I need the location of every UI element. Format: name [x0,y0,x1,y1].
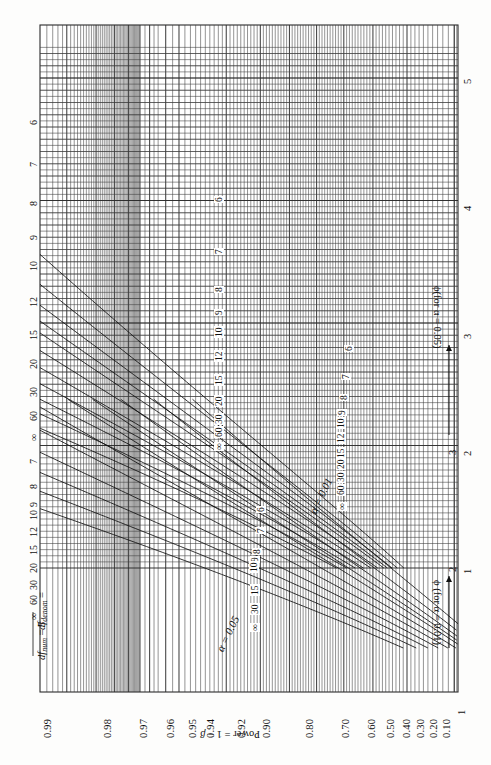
chart-canvas [0,0,491,765]
phi-001-axis-title: ϕ (for α = 0.01) [432,580,443,645]
curve-label-inner-001: 6 [344,345,354,352]
power-tick-label: 0.95 [187,719,198,738]
curve-label-inner-005: 8 [252,548,262,555]
curve-label-inner-005: 30 [250,604,260,616]
curve-label-edge: 12 [28,527,39,537]
curve-label-edge: 7 [28,162,39,167]
power-tick-label: 0.30 [415,719,426,738]
df-num-symbol: df [36,652,47,660]
curve-label-inner-001: 10 [336,418,346,430]
curve-label-mid: ∞ [214,442,224,451]
curve-label-edge: 6 [28,120,39,125]
power-tick-label: 0.40 [401,719,412,738]
phi-005-tick-label: 5 [462,79,473,84]
curve-label-mid: 30 [214,414,224,426]
power-tick-label: 0.20 [428,719,439,738]
curve-label-inner-001: 15 [336,448,346,460]
curve-label-inner-001: ∞ [337,502,347,511]
df-num-subscript: num [40,638,49,652]
power-tick-label: 0.90 [261,719,272,738]
phi-005-tick-label: 2 [462,451,473,456]
power-axis-end-label: 1 [456,710,467,715]
power-axis-title-text: Power = 1 − [206,729,260,740]
curve-label-edge: 15 [28,330,39,340]
df-denom-subscript: denom [40,601,49,622]
curve-label-mid: 15 [214,375,224,387]
df-denom-symbol: df [36,622,47,630]
curve-label-mid: 6 [214,196,224,203]
curve-label-edge: 12 [28,297,39,307]
curve-label-mid: 20 [214,396,224,408]
curve-label-inner-001: 60 [336,485,346,497]
curve-label-mid: 9 [214,309,224,316]
phi-005-axis-title: ϕ(for α = 0.05) [432,286,443,348]
power-tick-label: 0.80 [304,719,315,738]
curve-label-edge: 15 [28,545,39,555]
curve-label-edge: 20 [28,563,39,573]
curve-label-edge: 30 [28,387,39,397]
curve-label-inner-005: 7 [256,527,266,534]
curve-label-inner-001: 20 [336,459,346,471]
curve-label-edge: 10 [28,510,39,520]
curve-label-inner-005: 15 [250,585,260,597]
curve-label-inner-005: ∞ [250,623,260,632]
curve-label-mid: 8 [214,286,224,293]
curve-label-edge: 7 [28,459,39,464]
power-tick-label: 0.70 [340,719,351,738]
power-tick-label: 0.98 [102,719,113,738]
phi-005-tick-label: 4 [462,206,473,211]
power-tick-label: 0.60 [366,719,377,738]
curve-label-inner-001: 9 [337,409,347,416]
curve-label-edge: ∞ [28,613,39,620]
curve-label-inner-001: 7 [341,373,351,380]
curve-label-edge: 9 [28,235,39,240]
curve-label-inner-005: 6 [256,506,266,513]
curve-label-edge: 8 [28,484,39,489]
power-axis-beta: β [200,729,205,740]
power-tick-label: 0.99 [42,719,53,738]
curve-label-inner-001: 30 [336,472,346,484]
phi-005-tick-label: 1 [462,569,473,574]
curve-label-edge: 8 [28,201,39,206]
phi-005-tick-label: 3 [462,334,473,339]
power-tick-label: 0.50 [385,719,396,738]
curve-label-mid: 12 [214,351,224,363]
curve-label-inner-005: 10 [249,562,259,574]
power-tick-label: 0.96 [165,719,176,738]
curve-label-mid: 60 [214,427,224,439]
power-curve-figure: 0.990.980.970.960.950.940.920.900.800.70… [0,0,491,765]
curve-label-edge: 20 [28,359,39,369]
power-axis-title: Power = 1 − β [200,729,260,740]
curve-label-edge: 30 [28,580,39,590]
curve-label-edge: 60 [28,595,39,605]
phi-001-tick-label: 3 [447,450,458,455]
curve-label-edge: 60 [28,411,39,421]
curve-label-inner-001: 8 [339,394,349,401]
curve-label-mid: 10 [214,327,224,339]
curve-label-mid: 7 [214,248,224,255]
curve-label-edge: 9 [28,502,39,507]
curve-label-edge: ∞ [28,434,39,441]
power-tick-label: 0.10 [441,719,452,738]
phi-001-tick-label: 2 [447,567,458,572]
curve-label-edge: 10 [28,261,39,271]
curve-label-inner-001: 12 [336,433,346,445]
power-tick-label: 0.97 [138,719,149,738]
